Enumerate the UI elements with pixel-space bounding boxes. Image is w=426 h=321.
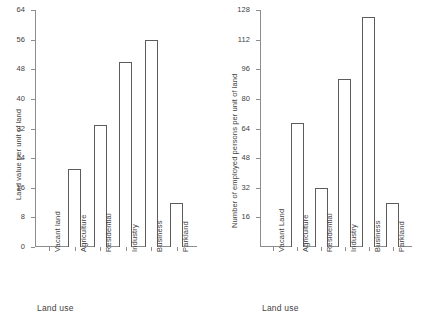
y-tick-label-right-80: 80 bbox=[241, 94, 250, 103]
y-tick-right-128: 128 bbox=[256, 10, 260, 11]
y-tick-label-right-48: 48 bbox=[241, 153, 250, 162]
x-tick-left-4 bbox=[151, 247, 152, 251]
x-tick-right-2 bbox=[321, 247, 322, 251]
y-tick-left-48: 48 bbox=[31, 69, 35, 70]
x-category-label-right-5: Parkland bbox=[397, 221, 406, 252]
y-tick-label-left-8: 8 bbox=[21, 212, 25, 221]
figure-two-bar-charts: Land value per unit of land Land use 081… bbox=[0, 0, 426, 321]
x-tick-right-5 bbox=[393, 247, 394, 251]
y-tick-right-16: 16 bbox=[256, 217, 260, 218]
x-tick-left-1 bbox=[75, 247, 76, 251]
y-tick-label-left-64: 64 bbox=[16, 5, 25, 14]
x-category-label-left-5: Parkland bbox=[181, 221, 190, 252]
x-category-label-right-4: Business bbox=[373, 220, 382, 252]
x-tick-right-3 bbox=[345, 247, 346, 251]
y-tick-label-left-24: 24 bbox=[16, 153, 25, 162]
y-tick-left-40: 40 bbox=[31, 99, 35, 100]
y-tick-left-16: 16 bbox=[31, 188, 35, 189]
y-tick-label-right-64: 64 bbox=[241, 124, 250, 133]
y-tick-left-64: 64 bbox=[31, 10, 35, 11]
x-tick-right-4 bbox=[369, 247, 370, 251]
x-category-label-right-2: Residential bbox=[325, 213, 334, 252]
y-tick-label-right-128: 128 bbox=[237, 5, 250, 14]
y-tick-left-24: 24 bbox=[31, 158, 35, 159]
bar-left-industry bbox=[119, 62, 132, 247]
y-tick-right-64: 64 bbox=[256, 129, 260, 130]
y-tick-label-left-40: 40 bbox=[16, 94, 25, 103]
x-tick-left-0 bbox=[49, 247, 50, 251]
chart-panel-land-value: Land value per unit of land Land use 081… bbox=[0, 0, 213, 321]
y-tick-left-32: 32 bbox=[31, 129, 35, 130]
x-category-label-right-1: Agriculture bbox=[301, 215, 310, 253]
x-tick-right-1 bbox=[297, 247, 298, 251]
y-tick-left-56: 56 bbox=[31, 40, 35, 41]
y-tick-label-right-32: 32 bbox=[241, 183, 250, 192]
x-tick-right-0 bbox=[273, 247, 274, 251]
y-tick-label-left-16: 16 bbox=[16, 183, 25, 192]
y-tick-label-left-0: 0 bbox=[21, 242, 25, 251]
y-tick-label-right-16: 16 bbox=[241, 212, 250, 221]
x-category-label-left-0: Vacant land bbox=[53, 211, 62, 252]
y-tick-right-80: 80 bbox=[256, 99, 260, 100]
x-category-label-right-3: Industry bbox=[349, 224, 358, 252]
y-axis-title-right: Number of employed persons per unit of l… bbox=[230, 74, 239, 228]
x-tick-left-3 bbox=[126, 247, 127, 251]
bar-left-business bbox=[145, 40, 158, 247]
x-category-label-right-0: Vacant Land bbox=[277, 209, 286, 252]
y-tick-right-32: 32 bbox=[256, 188, 260, 189]
x-tick-left-2 bbox=[100, 247, 101, 251]
y-tick-label-right-96: 96 bbox=[241, 64, 250, 73]
y-tick-left-8: 8 bbox=[31, 217, 35, 218]
y-tick-label-left-32: 32 bbox=[16, 124, 25, 133]
y-tick-right-96: 96 bbox=[256, 69, 260, 70]
y-axis-line-right bbox=[260, 10, 261, 247]
x-category-label-left-4: Business bbox=[155, 220, 164, 252]
y-tick-label-right-112: 112 bbox=[238, 35, 250, 44]
y-tick-left-0: 0 bbox=[31, 247, 35, 248]
y-tick-right-112: 112 bbox=[256, 40, 260, 41]
y-axis-line-left bbox=[35, 10, 36, 247]
x-axis-title-right: Land use bbox=[262, 303, 299, 313]
x-category-label-left-2: Residential bbox=[104, 213, 113, 252]
x-category-label-left-1: Agriculture bbox=[79, 215, 88, 253]
x-tick-left-5 bbox=[177, 247, 178, 251]
y-tick-label-left-56: 56 bbox=[16, 35, 25, 44]
bar-right-industry bbox=[338, 79, 351, 247]
y-tick-right-48: 48 bbox=[256, 158, 260, 159]
x-axis-title-left: Land use bbox=[37, 303, 74, 313]
bar-right-business bbox=[362, 17, 375, 247]
chart-panel-employed-persons: Number of employed persons per unit of l… bbox=[213, 0, 426, 321]
x-category-label-left-3: Industry bbox=[130, 224, 139, 252]
y-tick-label-left-48: 48 bbox=[16, 64, 25, 73]
